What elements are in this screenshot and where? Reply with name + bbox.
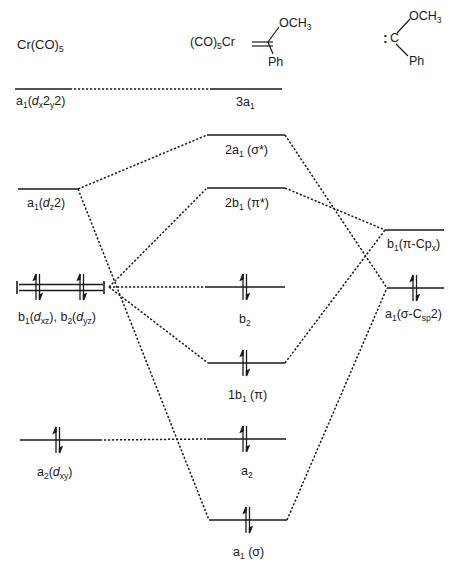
och3-text: OCH bbox=[279, 16, 307, 30]
electron-pair-dxz bbox=[34, 274, 43, 300]
och3-subscript: 3 bbox=[437, 15, 442, 25]
mo-diagram bbox=[0, 0, 458, 569]
label-a1-sigma-csp2: a1(σ-Csp2) bbox=[385, 308, 442, 321]
level-b1b2-degenerate bbox=[17, 281, 104, 294]
label-3a1: 3a1 bbox=[236, 96, 255, 109]
ph-text: Ph bbox=[409, 54, 424, 68]
label-b2: b2 bbox=[239, 313, 251, 326]
label-a2-dxy: a2(dxy) bbox=[37, 466, 72, 479]
label-b1-b2-dxz-dyz: b1(dxz), b2(dyz) bbox=[18, 311, 96, 324]
right-ph-group: Ph bbox=[409, 55, 424, 68]
ph-text: Ph bbox=[268, 55, 283, 69]
metal-symbol: Cr bbox=[222, 35, 235, 49]
formula-subscript: 5 bbox=[59, 44, 64, 54]
electron-pair-dyz bbox=[78, 274, 87, 300]
correlation-dpi-1b1 bbox=[109, 287, 208, 363]
center-ph-group: Ph bbox=[268, 56, 283, 69]
label-a2: a2 bbox=[241, 465, 253, 478]
label-1b1-pi: 1b1 (π) bbox=[228, 389, 267, 402]
bond-free-c-ph bbox=[396, 44, 408, 56]
label-a1-dz2: a1(dz2) bbox=[27, 197, 65, 210]
center-och3-group: OCH3 bbox=[279, 17, 312, 30]
label-a1-sigma: a1 (σ) bbox=[233, 546, 264, 559]
label-2a1-sigma-star: 2a1 (σ*) bbox=[225, 144, 268, 157]
right-carbene-carbon: C bbox=[390, 32, 399, 45]
correlation-dxy-a2 bbox=[100, 439, 207, 440]
correlation-csp2-2a1 bbox=[285, 135, 387, 288]
correlation-dz2-a1sigma bbox=[78, 189, 209, 520]
och3-subscript: 3 bbox=[307, 22, 312, 32]
correlation-dz2-2a1 bbox=[78, 135, 207, 189]
correlation-dpi-2b1 bbox=[109, 188, 207, 287]
bond-c-ph bbox=[268, 42, 273, 54]
correlation-csp2-a1sigma bbox=[287, 288, 387, 520]
right-carbene-lone-pair: : bbox=[383, 31, 388, 45]
label-b1-pi-cpx: b1(π-Cpx) bbox=[387, 238, 440, 251]
carbon-symbol: C bbox=[390, 31, 399, 45]
center-complex-formula: (CO)5Cr bbox=[190, 36, 235, 49]
left-fragment-title: Cr(CO)5 bbox=[17, 38, 64, 51]
formula-text: Cr(CO) bbox=[17, 37, 59, 52]
label-2b1-pi-star: 2b1 (π*) bbox=[225, 197, 269, 210]
lone-pair-dots: : bbox=[383, 30, 388, 46]
label-a1-dx2y2: a1(dx2y2) bbox=[16, 95, 65, 108]
metal-fragment-text: (CO) bbox=[190, 35, 217, 49]
bond-c-och3 bbox=[268, 27, 279, 42]
och3-text: OCH bbox=[409, 9, 437, 23]
correlation-picpx-1b1 bbox=[285, 230, 385, 363]
right-och3-group: OCH3 bbox=[409, 10, 442, 23]
